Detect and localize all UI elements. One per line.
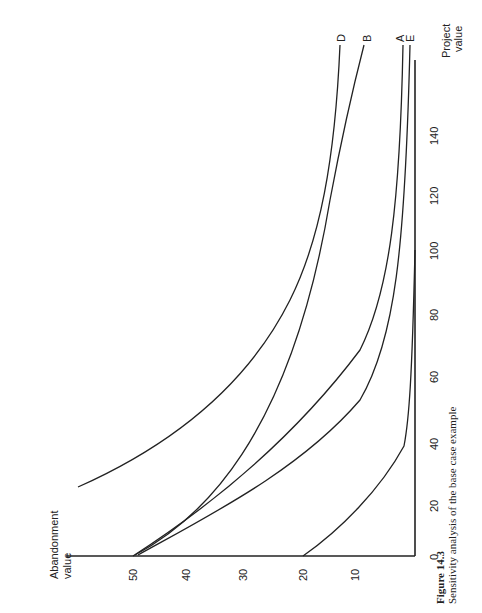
curve-e xyxy=(138,45,410,555)
tick-80: 80 xyxy=(428,309,440,321)
tick-20: 20 xyxy=(297,569,309,581)
tick-40: 40 xyxy=(180,569,192,581)
curve-d xyxy=(78,45,340,487)
project-value-title-line2: value xyxy=(452,26,464,52)
tick-100: 100 xyxy=(428,242,440,260)
abandonment-title-line1: Abandonment xyxy=(48,511,60,580)
figure-caption: Figure 14.3 Sensitivity analysis of the … xyxy=(434,407,458,604)
project-value-title-line1: Project xyxy=(440,24,452,58)
tick-50: 50 xyxy=(127,569,139,581)
figure-description: Sensitivity analysis of the base case ex… xyxy=(446,407,458,604)
label-b: B xyxy=(361,35,373,42)
curve-unlabeled xyxy=(303,250,415,556)
sensitivity-chart: 50 40 30 20 10 Abandonment value 0 20 40… xyxy=(0,0,482,613)
abandonment-title-line2: value xyxy=(61,553,73,579)
label-e: E xyxy=(404,35,416,42)
curve-b xyxy=(135,45,364,555)
tick-140: 140 xyxy=(428,127,440,145)
abandonment-tick-labels: 50 40 30 20 10 xyxy=(127,569,361,581)
tick-60: 60 xyxy=(428,371,440,383)
tick-30: 30 xyxy=(237,569,249,581)
figure-number: Figure 14.3 xyxy=(434,407,446,604)
tick-10: 10 xyxy=(349,569,361,581)
tick-120: 120 xyxy=(428,187,440,205)
curve-labels: D B A E xyxy=(335,34,416,42)
label-d: D xyxy=(335,34,347,42)
